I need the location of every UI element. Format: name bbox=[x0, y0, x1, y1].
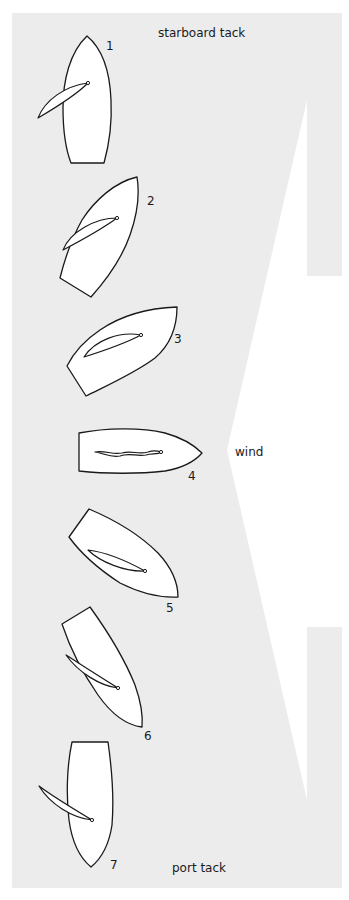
boat-number: 2 bbox=[147, 194, 155, 208]
wind-label: wind bbox=[235, 445, 263, 459]
panel-strip-bottom bbox=[308, 627, 342, 888]
starboard-tack-label: starboard tack bbox=[158, 26, 245, 40]
boat-number: 7 bbox=[110, 858, 118, 872]
panel-strip-top bbox=[308, 13, 342, 276]
boat-number: 1 bbox=[106, 39, 114, 53]
port-tack-label: port tack bbox=[172, 861, 226, 875]
boat-number: 6 bbox=[144, 729, 152, 743]
boat-number: 5 bbox=[166, 601, 174, 615]
boat-number: 3 bbox=[174, 332, 182, 346]
boat-number: 4 bbox=[188, 469, 196, 483]
tacking-diagram: starboard tack wind port tack 1 2 3 4 5 bbox=[0, 0, 349, 900]
